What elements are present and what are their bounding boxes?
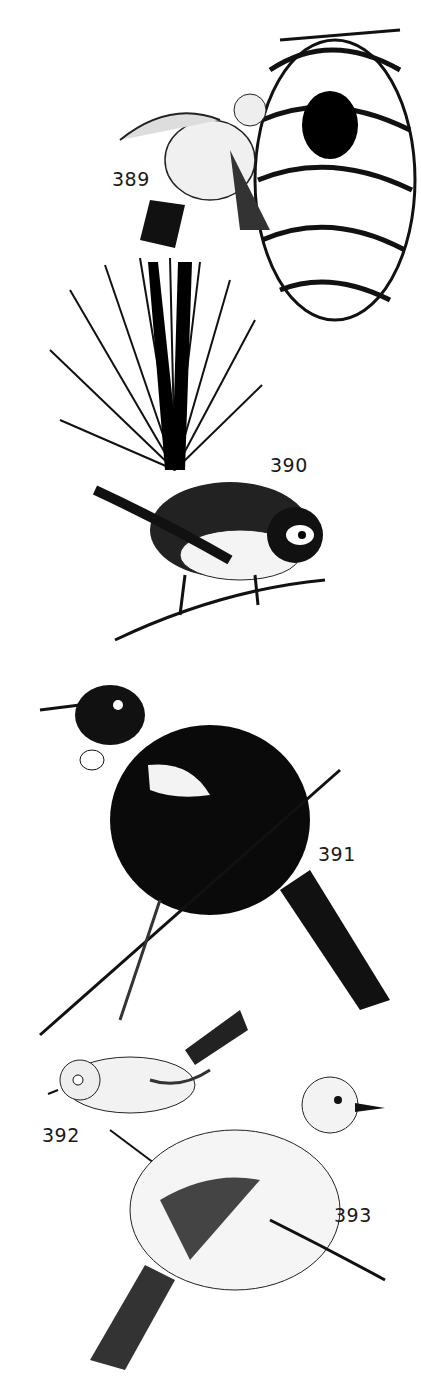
figure-label-391: 391 [318, 843, 356, 865]
bird-plate: 389 390 391 392 393 [0, 0, 421, 1396]
bird-389-nest-illustration [120, 30, 415, 320]
figure-label-393: 393 [334, 1204, 372, 1226]
figure-label-392: 392 [42, 1124, 80, 1146]
figure-label-390: 390 [270, 454, 308, 476]
figure-label-389: 389 [112, 168, 150, 190]
bird-illustrations [0, 0, 421, 1396]
bird-390-fantail-illustration [50, 258, 325, 640]
